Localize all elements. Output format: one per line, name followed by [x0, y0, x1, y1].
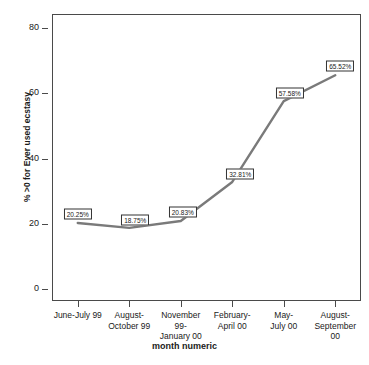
- y-tick-label: 40: [29, 153, 39, 163]
- chart-page: % >0 for Ever used ecstasy 020406080 Jun…: [0, 0, 369, 365]
- y-axis-title: % >0 for Ever used ecstasy: [22, 57, 32, 237]
- x-tick-label: February- April 00: [207, 310, 259, 331]
- x-tick-label: May- July 00: [258, 310, 310, 331]
- y-tick: 20: [0, 224, 52, 225]
- data-point-label: 20.83%: [169, 207, 197, 218]
- data-point-label: 57.58%: [276, 88, 304, 99]
- plot-area-frame: [52, 14, 361, 301]
- x-tick-mark: [78, 301, 79, 307]
- x-tick-label: August- September 00: [310, 310, 362, 342]
- data-point-label: 65.52%: [326, 61, 354, 72]
- y-tick-label: 80: [29, 22, 39, 32]
- y-tick-mark: [42, 289, 48, 290]
- y-tick: 40: [0, 159, 52, 160]
- y-tick: 60: [0, 93, 52, 94]
- y-tick-label: 60: [29, 87, 39, 97]
- data-point-label: 20.25%: [64, 208, 92, 219]
- x-tick-mark: [335, 301, 336, 307]
- x-tick-mark: [284, 301, 285, 307]
- data-point-label: 18.75%: [121, 214, 149, 225]
- x-tick-mark: [129, 301, 130, 307]
- y-tick: 80: [0, 28, 52, 29]
- y-tick-mark: [42, 93, 48, 94]
- x-axis-title: month numeric: [0, 341, 369, 351]
- y-tick: 0: [0, 289, 52, 290]
- y-tick-mark: [42, 159, 48, 160]
- y-tick-mark: [42, 224, 48, 225]
- y-tick-label: 20: [29, 218, 39, 228]
- y-tick-label: 0: [34, 283, 39, 293]
- x-tick-mark: [181, 301, 182, 307]
- x-tick-label: August- October 99: [104, 310, 156, 331]
- data-point-label: 32.81%: [226, 168, 254, 179]
- x-tick-label: June-July 99: [52, 310, 104, 321]
- x-tick-mark: [232, 301, 233, 307]
- x-tick-label: November 99- January 00: [155, 310, 207, 342]
- y-tick-mark: [42, 28, 48, 29]
